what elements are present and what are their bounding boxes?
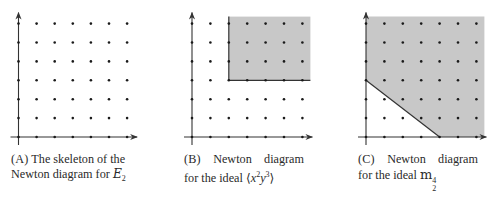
caption-c-tag: (C)	[358, 152, 375, 167]
lattice-point	[264, 98, 267, 101]
lattice-point	[191, 79, 194, 82]
lattice-point	[438, 98, 441, 101]
lattice-point	[209, 60, 212, 63]
lattice-point	[383, 22, 386, 25]
lattice-point	[108, 117, 111, 120]
lattice-point	[228, 41, 231, 44]
lattice-point	[90, 60, 93, 63]
caption-b-word2: diagram	[264, 152, 304, 167]
lattice-point	[457, 41, 460, 44]
lattice-point	[209, 41, 212, 44]
lattice-point	[283, 41, 286, 44]
lattice-point	[228, 136, 231, 139]
lattice-point	[126, 22, 129, 25]
lattice-point	[301, 60, 304, 63]
lattice-point	[35, 117, 38, 120]
lattice-point	[126, 60, 129, 63]
lattice-point	[475, 117, 478, 120]
lattice-point	[365, 22, 368, 25]
lattice-point	[246, 117, 249, 120]
caption-b-word1: Newton	[213, 152, 252, 167]
lattice-point	[35, 60, 38, 63]
caption-a: (A) The skeleton of the Newton diagram f…	[11, 152, 141, 186]
lattice-point	[301, 22, 304, 25]
lattice-point	[283, 22, 286, 25]
lattice-point	[365, 98, 368, 101]
lattice-point	[126, 98, 129, 101]
lattice-point	[420, 98, 423, 101]
lattice-point	[35, 136, 38, 139]
ideal-m: m	[420, 167, 432, 182]
caption-c-line2: for the ideal	[358, 168, 420, 182]
lattice-point	[53, 117, 56, 120]
lattice-point	[264, 136, 267, 139]
lattice-point	[246, 136, 249, 139]
lattice-point	[420, 117, 423, 120]
lattice-point	[191, 41, 194, 44]
lattice-point	[17, 22, 20, 25]
lattice-point	[209, 98, 212, 101]
lattice-point	[209, 136, 212, 139]
lattice-point	[191, 60, 194, 63]
lattice-point	[53, 22, 56, 25]
lattice-point	[35, 79, 38, 82]
lattice-point	[228, 22, 231, 25]
lattice-point	[191, 117, 194, 120]
lattice-point	[209, 117, 212, 120]
lattice-point	[228, 79, 231, 82]
lattice-point	[72, 136, 75, 139]
lattice-point	[264, 41, 267, 44]
panel-a-skeleton-diagram	[11, 13, 138, 145]
newton-diagrams-figure	[0, 0, 499, 150]
lattice-point	[264, 79, 267, 82]
lattice-point	[35, 98, 38, 101]
lattice-point	[35, 41, 38, 44]
lattice-point	[283, 117, 286, 120]
lattice-point	[475, 22, 478, 25]
lattice-point	[420, 136, 423, 139]
lattice-point	[209, 22, 212, 25]
lattice-point	[475, 136, 478, 139]
lattice-point	[90, 41, 93, 44]
ideal-close-bracket: ⟩	[270, 171, 275, 185]
lattice-point	[365, 79, 368, 82]
caption-b-line2: for the ideal	[184, 171, 246, 185]
lattice-point	[246, 98, 249, 101]
lattice-point	[126, 136, 129, 139]
lattice-point	[90, 22, 93, 25]
lattice-point	[365, 41, 368, 44]
lattice-point	[438, 117, 441, 120]
lattice-point	[402, 79, 405, 82]
lattice-point	[90, 136, 93, 139]
lattice-point	[108, 79, 111, 82]
lattice-point	[228, 117, 231, 120]
lattice-point	[228, 98, 231, 101]
caption-c: (C)Newtondiagram for the ideal m42	[358, 152, 478, 193]
caption-b-tag: (B)	[184, 152, 201, 167]
lattice-point	[191, 98, 194, 101]
lattice-point	[126, 117, 129, 120]
shaded-region	[229, 17, 311, 81]
caption-a-tag: (A)	[11, 152, 29, 166]
lattice-point	[72, 60, 75, 63]
lattice-point	[301, 98, 304, 101]
lattice-point	[246, 60, 249, 63]
lattice-point	[53, 41, 56, 44]
lattice-point	[475, 41, 478, 44]
lattice-point	[246, 41, 249, 44]
lattice-point	[383, 41, 386, 44]
lattice-point	[191, 136, 194, 139]
lattice-point	[475, 79, 478, 82]
lattice-point	[383, 79, 386, 82]
lattice-point	[53, 98, 56, 101]
lattice-point	[17, 98, 20, 101]
caption-a-line2: Newton diagram for	[11, 167, 113, 181]
lattice-point	[108, 136, 111, 139]
lattice-point	[35, 22, 38, 25]
ideal-m-subscript: 2	[432, 185, 436, 193]
lattice-point	[53, 60, 56, 63]
lattice-point	[72, 22, 75, 25]
lattice-point	[420, 60, 423, 63]
lattice-point	[402, 136, 405, 139]
lattice-point	[365, 60, 368, 63]
